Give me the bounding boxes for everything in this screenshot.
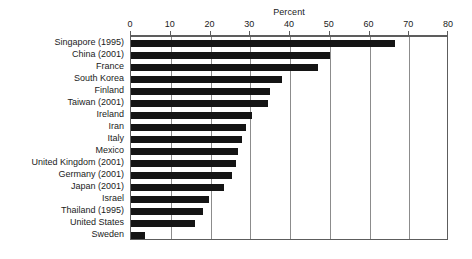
- bar-row: [131, 100, 449, 107]
- x-tick-label: 40: [284, 19, 294, 29]
- x-tick-label: 50: [324, 19, 334, 29]
- bar: [131, 124, 246, 131]
- category-label: Japan (2001): [71, 181, 124, 191]
- bar-row: [131, 148, 449, 155]
- category-label-group: Singapore (1995)China (2001)FranceSouth …: [0, 36, 127, 240]
- bar-row: [131, 64, 449, 71]
- bar-row: [131, 52, 449, 59]
- bar: [131, 148, 238, 155]
- bar-row: [131, 40, 449, 47]
- category-label: Ireland: [96, 109, 124, 119]
- category-label: China (2001): [72, 49, 124, 59]
- bar-row: [131, 88, 449, 95]
- category-label: France: [96, 61, 124, 71]
- bar: [131, 232, 145, 239]
- x-tick-label: 80: [443, 19, 453, 29]
- bar-row: [131, 112, 449, 119]
- bar: [131, 184, 224, 191]
- x-tick-label: 30: [244, 19, 254, 29]
- bar-row: [131, 172, 449, 179]
- bar-row: [131, 220, 449, 227]
- bar-row: [131, 124, 449, 131]
- bar: [131, 136, 242, 143]
- x-tick-label: 70: [403, 19, 413, 29]
- category-label: Sweden: [91, 229, 124, 239]
- bar: [131, 220, 195, 227]
- category-label: United Kingdom (2001): [31, 157, 124, 167]
- bar-row: [131, 208, 449, 215]
- bar-row: [131, 136, 449, 143]
- category-label: Singapore (1995): [54, 37, 124, 47]
- category-label: Taiwan (2001): [67, 97, 124, 107]
- bar-chart: Percent Singapore (1995)China (2001)Fran…: [0, 0, 472, 259]
- bar-row: [131, 160, 449, 167]
- category-label: Italy: [107, 133, 124, 143]
- bar: [131, 196, 209, 203]
- category-label: Finland: [94, 85, 124, 95]
- category-label: South Korea: [74, 73, 124, 83]
- bar: [131, 52, 330, 59]
- category-label: Iran: [108, 121, 124, 131]
- bar: [131, 40, 395, 47]
- category-label: United States: [70, 217, 124, 227]
- x-tick-label: 20: [204, 19, 214, 29]
- plot-area: [130, 36, 448, 240]
- bar-row: [131, 232, 449, 239]
- bar-row: [131, 184, 449, 191]
- category-label: Israel: [102, 193, 124, 203]
- bar: [131, 208, 203, 215]
- category-label: Germany (2001): [58, 169, 124, 179]
- category-label: Thailand (1995): [61, 205, 124, 215]
- bar: [131, 88, 270, 95]
- x-tick-label: 60: [363, 19, 373, 29]
- x-tick-label: 0: [127, 19, 132, 29]
- bar: [131, 100, 268, 107]
- bar: [131, 76, 282, 83]
- bar: [131, 160, 236, 167]
- bar-row: [131, 196, 449, 203]
- category-label: Mexico: [95, 145, 124, 155]
- bar-row: [131, 76, 449, 83]
- x-tick-label: 10: [165, 19, 175, 29]
- axis-title: Percent: [130, 7, 448, 17]
- bar: [131, 64, 318, 71]
- bar: [131, 112, 252, 119]
- bar: [131, 172, 232, 179]
